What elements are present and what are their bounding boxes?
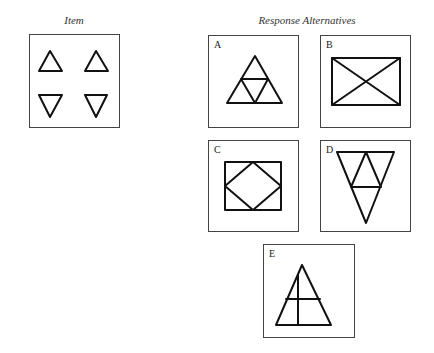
figure-drawing (209, 141, 300, 233)
triangle-up-1-shape (39, 51, 62, 71)
option-a-panel[interactable]: A (208, 35, 299, 128)
option-d-panel[interactable]: D (320, 140, 411, 232)
figure-drawing (321, 36, 412, 129)
rectangle-shape (225, 162, 281, 210)
alternatives-title: Response Alternatives (258, 14, 355, 26)
item-panel (29, 34, 120, 128)
figure-drawing (209, 36, 300, 129)
figure-drawing (321, 141, 412, 233)
item-title: Item (64, 14, 84, 26)
option-b-panel[interactable]: B (320, 35, 411, 128)
triangle-up-2-shape (85, 51, 108, 71)
figure-drawing (30, 35, 121, 129)
inner-triangle-shape (241, 79, 268, 103)
inner-triangle-shape (351, 152, 381, 187)
figure-drawing (264, 245, 356, 339)
triangle-down-2-shape (85, 95, 107, 117)
triangle-down-1-shape (39, 95, 62, 117)
option-e-panel[interactable]: E (263, 244, 355, 338)
outer-triangle-shape (276, 265, 331, 325)
diamond-shape (225, 162, 281, 210)
option-c-panel[interactable]: C (208, 140, 299, 232)
